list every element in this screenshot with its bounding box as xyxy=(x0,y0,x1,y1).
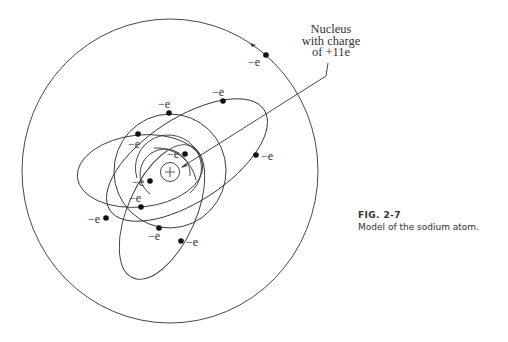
electron-label: −e xyxy=(88,213,100,225)
pointer-arrowhead xyxy=(181,163,187,168)
electron-label: −e xyxy=(167,148,179,160)
orbit-tilted xyxy=(87,75,287,246)
nucleus-pointer xyxy=(182,63,328,167)
electron xyxy=(166,110,172,116)
electron xyxy=(135,131,141,137)
electron-label: −e xyxy=(248,56,260,68)
figure-caption: FIG. 2-7 Model of the sodium atom. xyxy=(358,210,479,232)
inner-orbit-2 xyxy=(135,135,201,193)
electron xyxy=(178,238,184,244)
orbit-tall xyxy=(102,132,223,291)
electron xyxy=(138,204,144,210)
figure-number: FIG. 2-7 xyxy=(358,210,479,220)
electron-label: −e xyxy=(128,138,140,150)
electron xyxy=(147,178,153,184)
electron-label: −e xyxy=(212,86,224,98)
electron-label: −e xyxy=(261,150,273,162)
electron xyxy=(263,52,269,58)
electron xyxy=(182,151,188,157)
electron-label: −e xyxy=(132,176,144,188)
figure-description: Model of the sodium atom. xyxy=(358,222,479,232)
nucleus-label-line3: of +11e xyxy=(296,47,366,59)
electron-label: −e xyxy=(129,192,141,204)
electron xyxy=(103,215,109,221)
electron xyxy=(253,152,259,158)
electron-label: −e xyxy=(148,230,160,242)
sodium-atom-diagram xyxy=(0,0,508,342)
inner-orbit-1 xyxy=(140,149,190,194)
nucleus-label: Nucleus with charge of +11e xyxy=(296,24,366,59)
electron-label: −e xyxy=(186,236,198,248)
electron-label: −e xyxy=(158,98,170,110)
electron xyxy=(220,98,226,104)
